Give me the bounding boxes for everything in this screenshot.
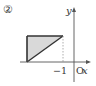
figure-number-label: ② <box>3 3 13 16</box>
y-axis-arrow-icon <box>72 7 76 12</box>
y-axis-label: y <box>65 5 72 16</box>
tick-label-minus-one: −1 <box>53 65 67 76</box>
coordinate-figure: ② y x O −1 <box>0 0 96 86</box>
origin-label: O <box>76 65 84 76</box>
x-axis-arrow-icon <box>86 60 91 64</box>
